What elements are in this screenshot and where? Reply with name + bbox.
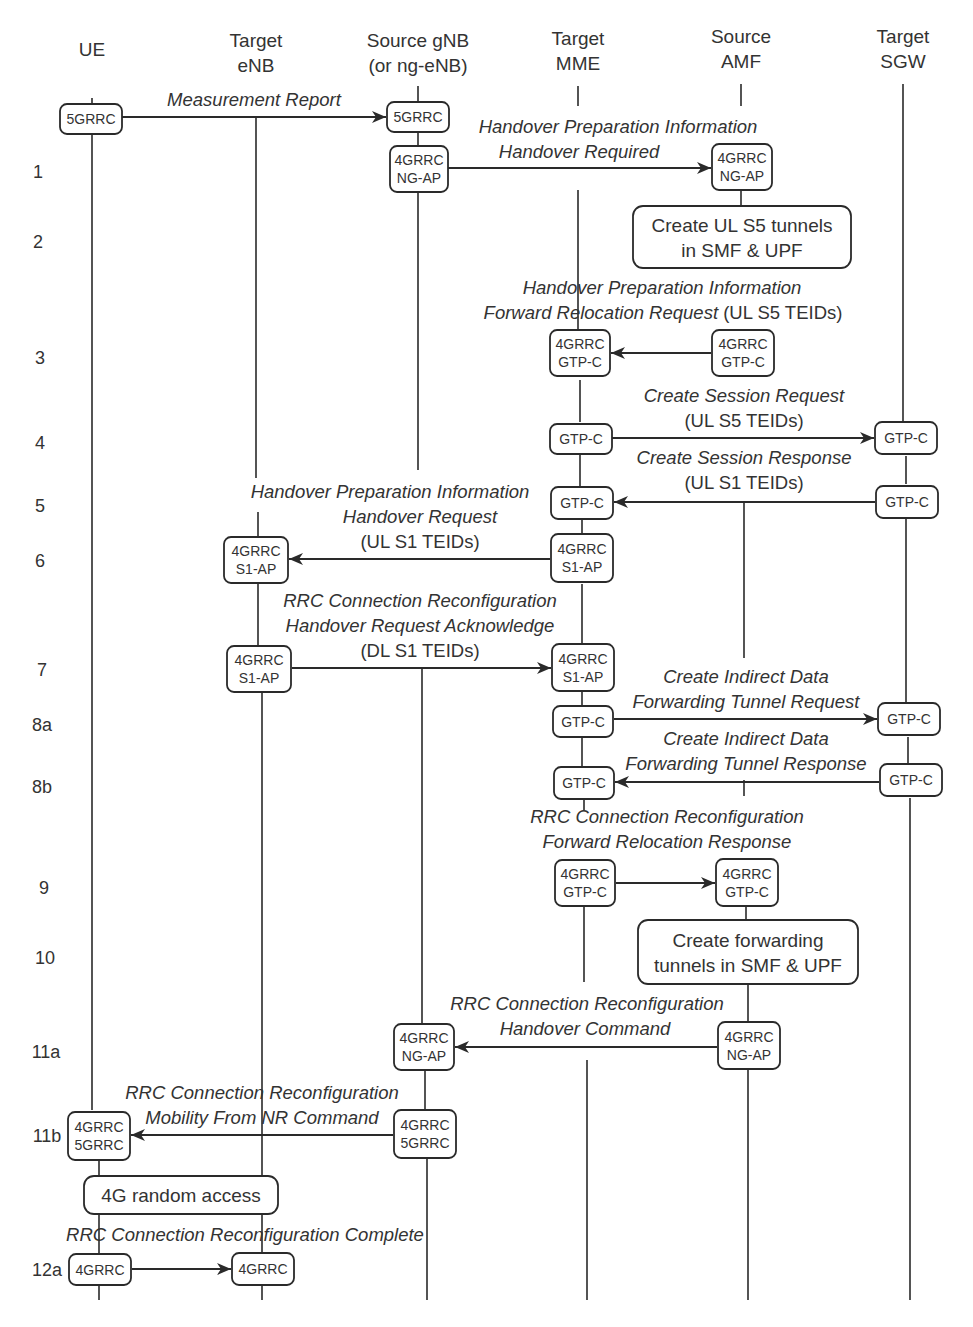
actor-headers: UETargeteNBSource gNB(or ng-eNB)TargetMM…	[79, 26, 930, 76]
process-box-p_create_fwd: Create forwardingtunnels in SMF & UPF	[638, 920, 858, 984]
actor-label: Target	[877, 26, 931, 47]
protocol-label: 4GRRC	[560, 866, 609, 882]
actor-label: AMF	[721, 51, 761, 72]
protocol-label: 5GRRC	[400, 1135, 449, 1151]
message-label: Handover Preparation Information	[523, 277, 802, 298]
protocol-node-n_gnb_mr: 5GRRC	[387, 102, 449, 132]
actor-label: Target	[230, 30, 284, 51]
protocol-node-n_mme_8b: GTP-C	[554, 767, 614, 799]
message-m_measurement_report: Measurement Report	[122, 89, 386, 123]
protocol-label: 4GRRC	[718, 336, 767, 352]
actor-source_amf: SourceAMF	[711, 26, 771, 72]
protocol-label: 4GRRC	[557, 541, 606, 557]
step-number: 12a	[32, 1260, 63, 1280]
message-label: RRC Connection Reconfiguration	[125, 1082, 399, 1103]
protocol-node-n_mme_4: GTP-C	[550, 424, 612, 454]
protocol-node-n_amf_9: 4GRRCGTP-C	[716, 859, 778, 906]
actor-label: (or ng-eNB)	[368, 55, 467, 76]
protocol-label: GTP-C	[563, 884, 607, 900]
protocol-node-n_amf_11a: 4GRRCNG-AP	[718, 1022, 780, 1069]
sequence-diagram: UETargeteNBSource gNB(or ng-eNB)TargetMM…	[0, 0, 973, 1327]
step-number: 8b	[32, 777, 52, 797]
message-label: Forward Relocation Request (UL S5 TEIDs)	[484, 302, 843, 323]
message-label: (UL S5 TEIDs)	[684, 410, 803, 431]
process-label: Create UL S5 tunnels	[652, 215, 833, 236]
message-label: Handover Preparation Information	[479, 116, 758, 137]
protocol-label: GTP-C	[559, 431, 603, 447]
protocol-node-n_amf_1: 4GRRCNG-AP	[712, 144, 772, 190]
message-label: Handover Request Acknowledge	[286, 615, 555, 636]
protocol-label: 4GRRC	[722, 866, 771, 882]
step-number: 2	[33, 232, 43, 252]
message-label: Mobility From NR Command	[145, 1107, 379, 1128]
step-number: 9	[39, 878, 49, 898]
step-number: 10	[35, 948, 55, 968]
protocol-node-n_gnb_11b: 4GRRC5GRRC	[394, 1110, 456, 1158]
process-box-p_create_ul_s5: Create UL S5 tunnelsin SMF & UPF	[633, 206, 851, 268]
protocol-label: GTP-C	[561, 714, 605, 730]
protocol-node-n_ue_mr: 5GRRC	[60, 104, 122, 134]
protocol-label: S1-AP	[239, 670, 279, 686]
protocol-node-n_enb_12a: 4GRRC	[232, 1253, 294, 1285]
protocol-label: 4GRRC	[724, 1029, 773, 1045]
protocol-label: GTP-C	[562, 775, 606, 791]
protocol-label: S1-AP	[563, 669, 603, 685]
message-label: Forwarding Tunnel Response	[625, 753, 866, 774]
protocol-label: GTP-C	[725, 884, 769, 900]
protocol-node-n_ue_11b: 4GRRC5GRRC	[68, 1112, 130, 1160]
protocol-label: 4GRRC	[238, 1261, 287, 1277]
protocol-label: NG-AP	[727, 1047, 771, 1063]
process-label: 4G random access	[101, 1185, 260, 1206]
actor-label: SGW	[880, 51, 925, 72]
protocol-node-n_mme_6: 4GRRCS1-AP	[551, 534, 613, 582]
protocol-label: NG-AP	[397, 170, 441, 186]
protocol-label: GTP-C	[560, 495, 604, 511]
actor-label: eNB	[238, 55, 275, 76]
message-label: RRC Connection Reconfiguration	[530, 806, 804, 827]
protocol-node-n_mme_7: 4GRRCS1-AP	[552, 644, 614, 691]
step-number: 11b	[33, 1126, 62, 1146]
protocol-label: 4GRRC	[400, 1117, 449, 1133]
actor-target_mme: TargetMME	[552, 28, 606, 74]
protocol-label: NG-AP	[720, 168, 764, 184]
actor-ue: UE	[79, 39, 105, 60]
message-m_forward_relocation_request: Handover Preparation InformationForward …	[484, 277, 843, 359]
message-label: RRC Connection Reconfiguration	[450, 993, 724, 1014]
message-m_handover_required: Handover Preparation InformationHandover…	[448, 116, 757, 174]
message-m_create_idf_tunnel_response: Create Indirect DataForwarding Tunnel Re…	[615, 728, 879, 788]
protocol-node-n_sgw_5: GTP-C	[876, 486, 938, 518]
protocol-label: 4GRRC	[234, 652, 283, 668]
message-label: Create Session Request	[644, 385, 845, 406]
message-label: (DL S1 TEIDs)	[360, 640, 479, 661]
protocol-label: 5GRRC	[393, 109, 442, 125]
protocol-label: 4GRRC	[399, 1030, 448, 1046]
protocol-node-n_enb_7: 4GRRCS1-AP	[227, 646, 291, 692]
message-label: Create Indirect Data	[663, 666, 829, 687]
protocol-label: 4GRRC	[231, 543, 280, 559]
step-numbers: 12345678a8b91011a11b12a	[32, 162, 63, 1280]
process-box-p_4g_random_access: 4G random access	[84, 1176, 278, 1214]
protocol-label: 5GRRC	[66, 111, 115, 127]
protocol-label: 4GRRC	[75, 1262, 124, 1278]
protocol-label: GTP-C	[887, 711, 931, 727]
message-m_create_session_response: Create Session Response(UL S1 TEIDs)	[614, 447, 875, 508]
message-label: (UL S1 TEIDs)	[360, 531, 479, 552]
process-label: Create forwarding	[672, 930, 823, 951]
message-label: Measurement Report	[167, 89, 342, 110]
step-number: 5	[35, 496, 45, 516]
message-label: (UL S1 TEIDs)	[684, 472, 803, 493]
protocol-label: S1-AP	[236, 561, 276, 577]
message-m_handover_request_ack: RRC Connection ReconfigurationHandover R…	[283, 590, 557, 674]
protocol-label: 4GRRC	[74, 1119, 123, 1135]
message-label: Handover Required	[499, 141, 660, 162]
protocol-node-n_ue_12a: 4GRRC	[69, 1254, 131, 1285]
protocol-label: S1-AP	[562, 559, 602, 575]
protocol-node-n_sgw_8b: GTP-C	[880, 764, 942, 796]
actor-label: Source gNB	[367, 30, 469, 51]
message-label: Handover Command	[500, 1018, 671, 1039]
message-label: Handover Preparation Information	[251, 481, 530, 502]
actor-label: UE	[79, 39, 105, 60]
step-number: 4	[35, 433, 45, 453]
protocol-label: NG-AP	[402, 1048, 446, 1064]
message-label: Forward Relocation Response	[543, 831, 792, 852]
